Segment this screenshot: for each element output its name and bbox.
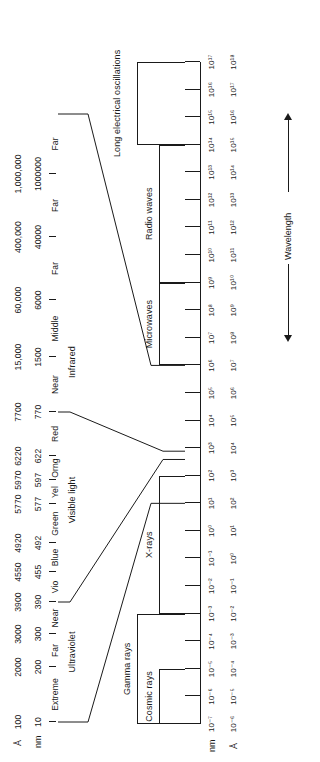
arrow-head-right [284, 113, 292, 120]
callout-ir-right-leader [58, 114, 185, 365]
arrow-shaft-right [288, 120, 289, 192]
wavelength-axis-arrow: Wavelength [283, 92, 295, 342]
wavelength-axis-label: Wavelength [283, 213, 293, 260]
arrow-head-left [284, 335, 292, 342]
callout-uv-vis-leader [58, 459, 185, 602]
electromagnetic-spectrum-figure: Ånm1002000300039004550492057705970622077… [0, 0, 320, 762]
callout-leader-lines [0, 0, 320, 762]
callout-vis-ir-leader [58, 412, 185, 451]
arrow-shaft-left [288, 264, 289, 336]
callout-uv-left-leader [58, 503, 185, 722]
figure-rotator: Ånm1002000300039004550492057705970622077… [0, 0, 320, 762]
